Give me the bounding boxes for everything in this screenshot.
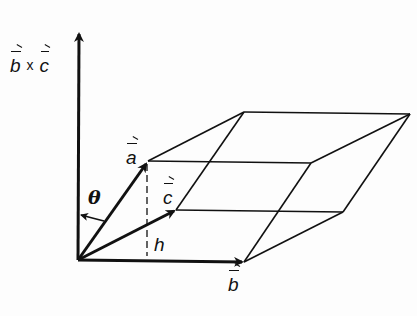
- height-label: h: [154, 235, 165, 254]
- parallelepiped-diagram: bxc a c b θ h: [0, 0, 417, 316]
- vector-a-label: a: [126, 148, 137, 167]
- theta-angle-arc: [81, 215, 104, 221]
- cross-b-label: b: [10, 56, 21, 75]
- theta-label: θ: [88, 188, 101, 207]
- vector-a: [78, 164, 146, 260]
- vector-c-label: c: [163, 188, 173, 207]
- diagram-graphic: [0, 0, 417, 316]
- vector-b-label: b: [228, 275, 239, 294]
- cross-product-axis: [78, 34, 79, 260]
- cross-c-label: c: [40, 56, 50, 75]
- cross-product-label: bxc: [10, 56, 49, 75]
- vector-b: [78, 260, 242, 262]
- parallelepiped-edges: [148, 112, 410, 262]
- cross-times-symbol: x: [27, 57, 34, 73]
